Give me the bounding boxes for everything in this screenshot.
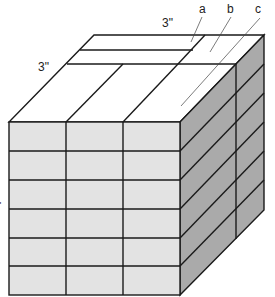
side-dimension-label: " xyxy=(0,200,1,210)
diagram-canvas: a b c 3" 3" " xyxy=(0,0,275,297)
label-c: c xyxy=(255,2,261,16)
brick-box-diagram: a b c 3" 3" " xyxy=(0,0,275,297)
top-dimension-label: 3" xyxy=(162,16,173,30)
label-b: b xyxy=(227,2,234,16)
left-dimension-label: 3" xyxy=(38,60,49,74)
label-a: a xyxy=(199,2,206,16)
